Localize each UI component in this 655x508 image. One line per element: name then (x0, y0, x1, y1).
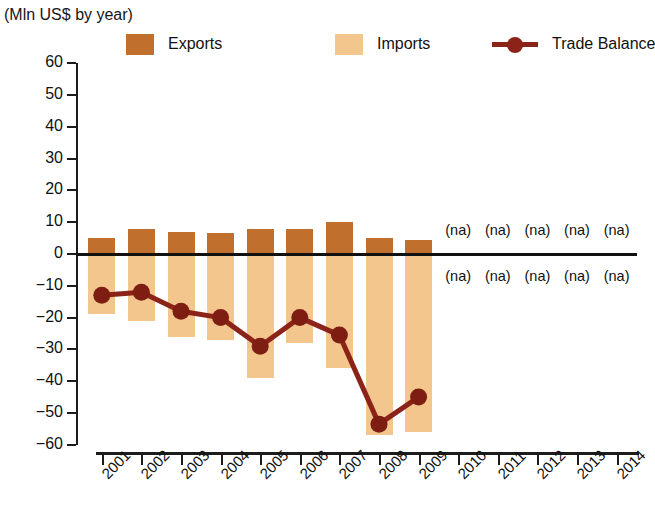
bar-exports-2009[interactable] (405, 240, 432, 254)
y-axis-label: 0 (19, 244, 63, 262)
bar-imports-2004[interactable] (207, 254, 234, 340)
y-axis-label: −20 (19, 308, 63, 326)
bar-imports-2008[interactable] (366, 254, 393, 435)
y-axis-tick (67, 126, 76, 128)
y-axis-label: 30 (19, 149, 63, 167)
bar-imports-2005[interactable] (247, 254, 274, 378)
y-axis-label: −50 (19, 403, 63, 421)
bar-imports-2009[interactable] (405, 254, 432, 432)
y-axis-tick (67, 158, 76, 160)
y-axis-tick (67, 189, 76, 191)
na-label-2010-upper: (na) (438, 222, 478, 238)
bar-imports-2001[interactable] (88, 254, 115, 314)
y-axis-label: 20 (19, 180, 63, 198)
na-label-2014-upper: (na) (597, 222, 637, 238)
y-axis-label: 60 (19, 53, 63, 71)
y-axis-tick (67, 62, 76, 64)
na-label-2012-lower: (na) (518, 268, 558, 284)
bar-exports-2006[interactable] (286, 229, 313, 254)
bar-exports-2001[interactable] (88, 238, 115, 254)
na-label-2010-lower: (na) (438, 268, 478, 284)
na-label-2011-lower: (na) (478, 268, 518, 284)
bar-exports-2003[interactable] (168, 232, 195, 254)
y-axis-label: −30 (19, 339, 63, 357)
bar-imports-2006[interactable] (286, 254, 313, 343)
y-axis-label: 50 (19, 85, 63, 103)
y-axis-label: 10 (19, 212, 63, 230)
bar-imports-2007[interactable] (326, 254, 353, 368)
bar-imports-2002[interactable] (128, 254, 155, 321)
bar-exports-2004[interactable] (207, 233, 234, 254)
y-axis-tick (67, 317, 76, 319)
zero-baseline (76, 253, 637, 256)
na-label-2013-lower: (na) (557, 268, 597, 284)
bar-exports-2002[interactable] (128, 229, 155, 254)
y-axis-tick (67, 444, 76, 446)
y-axis-tick (67, 380, 76, 382)
na-label-2012-upper: (na) (518, 222, 558, 238)
na-label-2013-upper: (na) (557, 222, 597, 238)
y-axis-tick (67, 221, 76, 223)
bar-imports-2003[interactable] (168, 254, 195, 337)
y-axis-label: −10 (19, 276, 63, 294)
y-axis-label: 40 (19, 117, 63, 135)
y-axis-tick (67, 253, 76, 255)
y-axis-label: −60 (19, 435, 63, 453)
y-axis-tick (67, 94, 76, 96)
na-label-2011-upper: (na) (478, 222, 518, 238)
bar-exports-2007[interactable] (326, 222, 353, 254)
na-label-2014-lower: (na) (597, 268, 637, 284)
y-axis-tick (67, 412, 76, 414)
y-axis-label: −40 (19, 371, 63, 389)
bar-exports-2005[interactable] (247, 229, 274, 254)
y-axis-tick (67, 348, 76, 350)
y-axis-tick (67, 285, 76, 287)
bar-exports-2008[interactable] (366, 238, 393, 254)
